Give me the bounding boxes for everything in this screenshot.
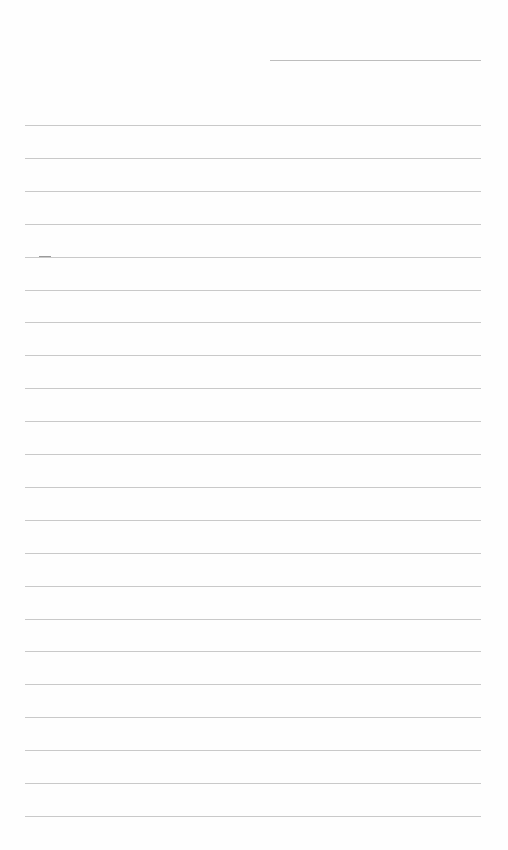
ruled-line xyxy=(25,191,481,192)
ruled-line xyxy=(25,454,481,455)
ruled-line xyxy=(25,388,481,389)
ruled-line xyxy=(25,257,481,258)
ruled-line xyxy=(25,520,481,521)
ruled-line xyxy=(25,158,481,159)
ruled-line xyxy=(25,355,481,356)
ruled-line xyxy=(25,586,481,587)
ruled-line xyxy=(25,684,481,685)
ruled-line xyxy=(25,750,481,751)
ruled-line xyxy=(25,553,481,554)
ruled-line xyxy=(25,421,481,422)
ruled-line xyxy=(25,619,481,620)
ruled-line xyxy=(25,717,481,718)
ruled-line xyxy=(25,487,481,488)
ruled-line xyxy=(25,651,481,652)
header-write-line xyxy=(270,60,481,61)
ruled-line xyxy=(25,322,481,323)
ruled-line xyxy=(25,783,481,784)
ruled-line xyxy=(25,290,481,291)
ruled-line xyxy=(25,816,481,817)
lined-paper-page xyxy=(0,0,508,850)
ruled-line xyxy=(25,125,481,126)
ruled-line xyxy=(25,224,481,225)
